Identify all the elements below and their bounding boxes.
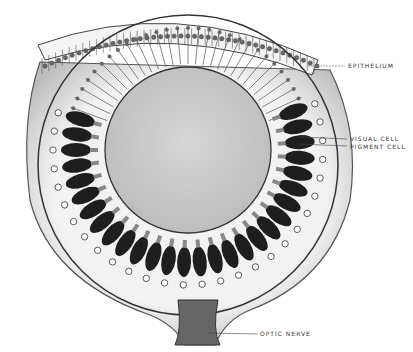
label-visual-cell: VISUAL CELL [350,135,399,142]
eye-diagram: EPITHELIUM VISUAL CELL PIGMENT CELL OPTI… [0,0,413,352]
lens [105,67,271,233]
label-optic-nerve: OPTIC NERVE [260,330,311,337]
optic-nerve [175,300,220,345]
eye-illustration [0,0,413,352]
label-epithelium: EPITHELIUM [348,62,394,69]
label-pigment-cell: PIGMENT CELL [350,143,406,150]
